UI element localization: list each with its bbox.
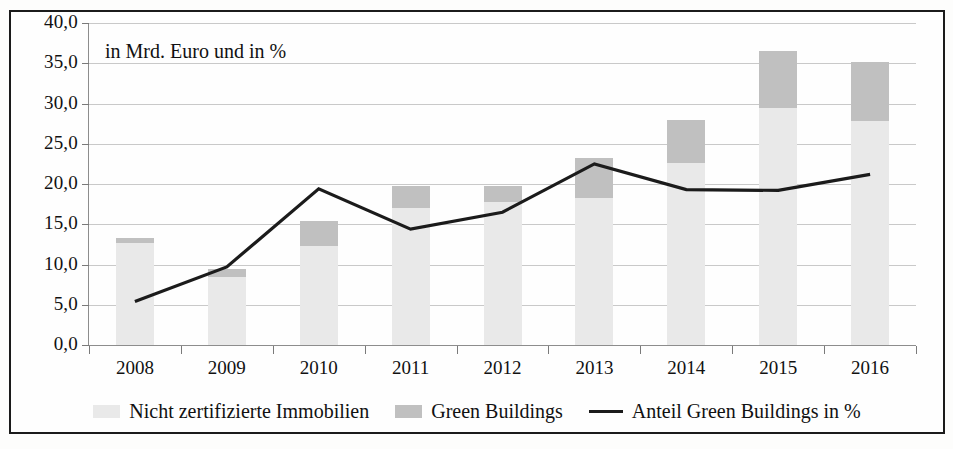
legend-color-swatch-icon xyxy=(395,405,422,418)
y-axis-tick xyxy=(82,345,89,346)
y-axis-tick-label: 40,0 xyxy=(18,11,78,33)
y-axis-tick-label: 25,0 xyxy=(18,132,78,154)
y-axis-labels: 0,05,010,015,020,025,030,035,040,0 xyxy=(10,0,78,449)
y-axis-tick xyxy=(82,144,89,145)
x-axis-tick xyxy=(548,346,549,354)
x-axis-tick-label: 2008 xyxy=(95,357,175,379)
x-axis-tick xyxy=(365,346,366,354)
x-axis-tick-label: 2011 xyxy=(371,357,451,379)
x-axis-tick-label: 2013 xyxy=(554,357,634,379)
legend-item[interactable]: Nicht zertifizierte Immobilien xyxy=(93,400,369,423)
line-path xyxy=(135,164,870,302)
y-axis-tick-label: 20,0 xyxy=(18,172,78,194)
legend-item[interactable]: Green Buildings xyxy=(395,400,563,423)
legend-line-swatch-icon xyxy=(589,410,623,413)
chart-annotation: in Mrd. Euro und in % xyxy=(105,40,286,63)
x-axis-tick xyxy=(916,346,917,354)
y-axis-tick xyxy=(82,265,89,266)
x-axis-tick-label: 2010 xyxy=(279,357,359,379)
x-axis-tick-label: 2015 xyxy=(738,357,818,379)
x-axis-tick xyxy=(89,346,90,354)
y-axis-tick-label: 30,0 xyxy=(18,92,78,114)
x-axis-tick-label: 2012 xyxy=(463,357,543,379)
x-axis-tick xyxy=(457,346,458,354)
chart-legend: Nicht zertifizierte ImmobilienGreen Buil… xyxy=(9,388,945,434)
y-axis-tick xyxy=(82,224,89,225)
x-axis-tick-label: 2016 xyxy=(830,357,910,379)
plot-area xyxy=(89,23,916,345)
line-series-anteil-green-buildings xyxy=(89,23,916,345)
y-axis-tick xyxy=(82,23,89,24)
y-axis-tick xyxy=(82,104,89,105)
x-axis-tick xyxy=(273,346,274,354)
x-axis-line xyxy=(88,345,916,346)
y-axis-tick-label: 5,0 xyxy=(18,293,78,315)
x-axis-tick xyxy=(732,346,733,354)
x-axis-tick-label: 2009 xyxy=(187,357,267,379)
legend-item[interactable]: Anteil Green Buildings in % xyxy=(589,400,861,423)
legend-item-label: Nicht zertifizierte Immobilien xyxy=(129,400,369,423)
legend-item-label: Green Buildings xyxy=(431,400,563,423)
y-axis-tick-label: 10,0 xyxy=(18,253,78,275)
y-axis-tick xyxy=(82,184,89,185)
x-axis-tick-label: 2014 xyxy=(646,357,726,379)
legend-item-label: Anteil Green Buildings in % xyxy=(632,400,861,423)
x-axis-tick xyxy=(640,346,641,354)
legend-color-swatch-icon xyxy=(93,405,120,418)
y-axis-tick-label: 0,0 xyxy=(18,333,78,355)
x-axis-tick xyxy=(824,346,825,354)
y-axis-tick xyxy=(82,305,89,306)
y-axis-tick-label: 15,0 xyxy=(18,212,78,234)
y-axis-tick-label: 35,0 xyxy=(18,51,78,73)
y-axis-tick xyxy=(82,63,89,64)
chart-figure: 0,05,010,015,020,025,030,035,040,0 20082… xyxy=(0,0,953,449)
x-axis-tick xyxy=(181,346,182,354)
